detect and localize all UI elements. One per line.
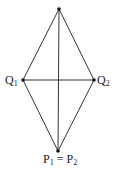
label-q1: Q1 (5, 73, 18, 88)
label-q2: Q2 (97, 73, 110, 88)
point-q2 (92, 78, 96, 82)
edge-q2-bottom (58, 80, 94, 151)
rhombus-diagram: Q1 Q2 P1 = P2 (0, 0, 116, 169)
point-q1 (21, 78, 25, 82)
edge-top-q2 (59, 9, 94, 80)
edge-q1-bottom (23, 80, 58, 151)
label-p1-equals-p2: P1 = P2 (43, 152, 77, 167)
point-top (57, 7, 61, 11)
edge-top-q1 (23, 9, 59, 80)
